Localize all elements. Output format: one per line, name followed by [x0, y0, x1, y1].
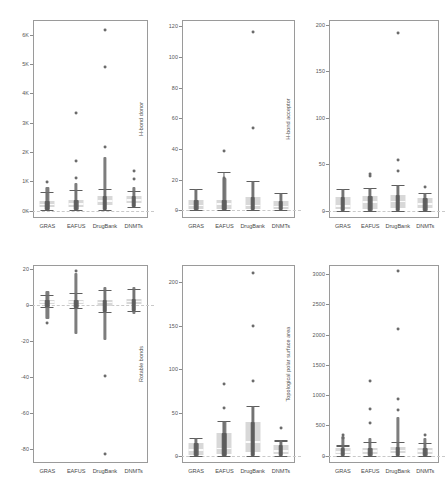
- y-tick-label: 1500: [295, 362, 325, 368]
- outlier-point: [369, 421, 372, 424]
- y-tick-label: 1000: [295, 392, 325, 398]
- panel-tpsa: 050010001500200025003000Topological pola…: [0, 0, 447, 498]
- y-tick-label: 2000: [295, 332, 325, 338]
- y-tick-label: 500: [295, 422, 325, 428]
- y-tick-label: 0: [295, 453, 325, 459]
- outlier-point: [424, 433, 427, 436]
- point-strip-core: [395, 447, 400, 455]
- outlier-point: [369, 407, 372, 410]
- figure-canvas: 0K1K2K3K4K5K6KMolecular weightGRASEAFUSD…: [0, 0, 447, 498]
- outlier-point: [396, 408, 399, 411]
- x-tick-label-dnmts: DNMTs: [412, 468, 440, 474]
- x-axis-labels-tpsa: GRASEAFUSDrugBankDNMTs: [329, 468, 439, 474]
- y-tick-label: 2500: [295, 301, 325, 307]
- y-tick-label: 3000: [295, 271, 325, 277]
- point-strip-core: [368, 448, 373, 456]
- point-strip-core: [340, 448, 345, 455]
- outlier-point: [396, 270, 399, 273]
- group-tpsa-EAFUS: [357, 265, 385, 463]
- outlier-point: [369, 380, 372, 383]
- outlier-point: [341, 434, 344, 437]
- point-strip-core: [423, 448, 428, 456]
- whisker-cap-lower: [419, 456, 432, 457]
- x-tick-label-drugbank: DrugBank: [384, 468, 412, 474]
- whisker-cap-lower: [364, 456, 377, 457]
- x-tick-label-eafus: EAFUS: [357, 468, 385, 474]
- whisker-cap-lower: [391, 456, 404, 457]
- x-tick-label-gras: GRAS: [329, 468, 357, 474]
- whisker-cap-lower: [336, 456, 349, 457]
- outlier-point: [396, 398, 399, 401]
- y-axis-label-text: Topological polar surface area: [285, 327, 291, 402]
- outlier-point: [396, 328, 399, 331]
